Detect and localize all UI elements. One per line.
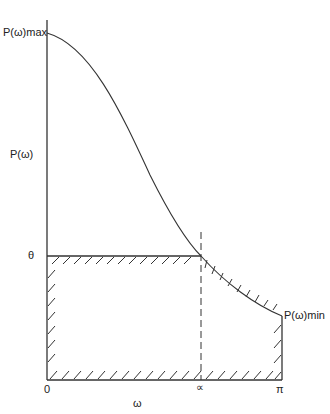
diagram-canvas <box>0 0 330 414</box>
hatch-theta <box>52 257 191 264</box>
hatch-y-axis <box>48 270 55 362</box>
p-max-label: P(ω)max <box>3 26 47 38</box>
hatch-pi-boundary <box>274 325 281 363</box>
omega-axis-label: ω <box>133 397 142 409</box>
theta-label: θ <box>28 249 34 261</box>
p-omega-curve <box>47 33 282 316</box>
hatch-x-axis <box>50 371 281 379</box>
hatch-curve <box>205 260 277 310</box>
zero-tick-label: 0 <box>44 383 50 395</box>
p-omega-axis-label: P(ω) <box>10 148 33 160</box>
pi-tick-label: π <box>276 383 284 395</box>
alpha-tick-label: ∝ <box>196 381 204 394</box>
p-min-label: P(ω)min <box>284 309 325 321</box>
